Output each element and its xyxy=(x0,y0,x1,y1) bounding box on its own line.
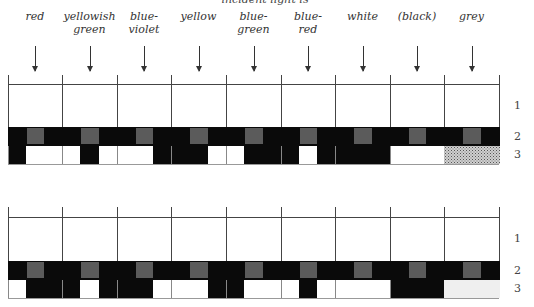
arrow-down-icon xyxy=(363,46,364,71)
row3-cell-black xyxy=(263,146,281,164)
row3-cell-black xyxy=(281,146,299,164)
column-label-line: red xyxy=(8,10,62,23)
column-label: (black) xyxy=(390,10,444,23)
row3-cell-black xyxy=(244,146,263,164)
row3-cell-white xyxy=(226,146,244,164)
column-divider xyxy=(335,75,336,127)
row3-divider xyxy=(117,146,118,164)
row3-cell-black xyxy=(117,280,135,298)
column-divider xyxy=(171,207,172,261)
row3-cell-white xyxy=(208,146,226,164)
column-divider xyxy=(444,207,445,261)
row3-cell-white xyxy=(171,280,189,298)
column-divider xyxy=(117,75,118,127)
row3-cell-black xyxy=(299,280,317,298)
column-label: white xyxy=(336,10,390,23)
column-label-line: white xyxy=(336,10,390,23)
row3-divider xyxy=(226,146,227,164)
row3-divider xyxy=(281,280,282,298)
column-label: yellowishgreen xyxy=(63,10,117,36)
caption: incident light is xyxy=(180,0,350,6)
column-label-line: blue- xyxy=(281,10,335,23)
column-label: blue-green xyxy=(227,10,281,36)
column-divider xyxy=(390,75,391,127)
grey-square xyxy=(27,128,44,144)
row3-divider xyxy=(117,280,118,298)
row3-cell-black xyxy=(226,280,244,298)
row3-divider xyxy=(281,146,282,164)
row3-cell-black xyxy=(153,146,171,164)
column-divider xyxy=(281,75,282,127)
figure-bottom-line xyxy=(8,298,499,299)
row-label: 3 xyxy=(514,282,521,295)
column-divider xyxy=(62,207,63,261)
row3-cell-white xyxy=(299,146,317,164)
row3-cell-black xyxy=(135,280,153,298)
row3-divider xyxy=(335,146,336,164)
row3-cell-black xyxy=(353,146,372,164)
grey-square xyxy=(136,262,153,278)
figure-bottom-line xyxy=(8,164,499,165)
row-label: 3 xyxy=(514,148,521,161)
row3-cell-white xyxy=(335,280,353,298)
grey-square xyxy=(463,262,480,278)
grey-square xyxy=(190,262,207,278)
column-divider xyxy=(444,75,445,127)
row3-cell-white xyxy=(135,146,153,164)
column-label: blue-violet xyxy=(117,10,171,36)
row3-divider xyxy=(335,280,336,298)
row3-cell-white xyxy=(80,280,99,298)
column-label-line: green xyxy=(227,23,281,36)
column-label-line: (black) xyxy=(390,10,444,23)
arrow-down-icon xyxy=(254,46,255,71)
row3-cell-stippled xyxy=(444,146,500,164)
grey-square xyxy=(245,128,262,144)
row3-divider xyxy=(171,146,172,164)
row3-cell-stippled xyxy=(444,280,500,298)
arrow-down-icon xyxy=(90,46,91,71)
column-label: grey xyxy=(445,10,499,23)
row3-cell-black xyxy=(44,280,62,298)
row3-cell-black xyxy=(408,280,426,298)
row3-cell-white xyxy=(153,280,171,298)
column-label: red xyxy=(8,10,62,23)
column-divider xyxy=(499,207,500,261)
row3-cell-white xyxy=(99,146,117,164)
row3-cell-white xyxy=(263,280,281,298)
row3-cell-black xyxy=(390,280,408,298)
column-label-line: violet xyxy=(117,23,171,36)
arrow-down-icon xyxy=(199,46,200,71)
column-label-line: yellow xyxy=(172,10,226,23)
column-divider xyxy=(226,207,227,261)
grey-square xyxy=(463,128,480,144)
row3-cell-white xyxy=(281,280,299,298)
row3-cell-white xyxy=(372,280,390,298)
row3-cell-white xyxy=(426,146,444,164)
row3-cell-black xyxy=(189,146,208,164)
grey-square xyxy=(27,262,44,278)
row3-cell-black xyxy=(426,280,444,298)
grey-square xyxy=(245,262,262,278)
row-label: 1 xyxy=(514,99,521,112)
arrow-down-icon xyxy=(472,46,473,71)
row1-top-line xyxy=(8,217,499,218)
grey-square xyxy=(354,262,371,278)
column-label-line: blue- xyxy=(227,10,281,23)
column-divider xyxy=(62,75,63,127)
row3-cell-black xyxy=(99,280,117,298)
grey-square xyxy=(409,262,426,278)
row3-cell-white xyxy=(317,280,335,298)
row3-cell-white xyxy=(117,146,135,164)
arrow-down-icon xyxy=(35,46,36,71)
row1-top-line xyxy=(8,84,499,85)
row3-cell-white xyxy=(408,146,426,164)
row3-cell-black xyxy=(335,146,353,164)
row3-cell-white xyxy=(353,280,372,298)
grey-square xyxy=(81,262,98,278)
column-divider xyxy=(335,207,336,261)
row3-cell-black xyxy=(372,146,390,164)
column-divider xyxy=(390,207,391,261)
column-divider xyxy=(117,207,118,261)
column-label: yellow xyxy=(172,10,226,23)
row3-cell-black xyxy=(317,146,335,164)
